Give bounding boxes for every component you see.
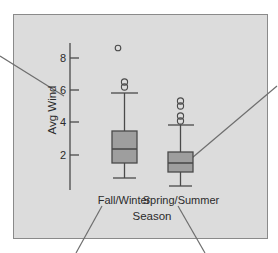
callout-lines bbox=[0, 56, 277, 253]
boxplot-svg: 8 6 4 2 Avg Wind bbox=[0, 0, 278, 253]
bp2-box bbox=[168, 152, 193, 172]
bp1-outlier-point bbox=[115, 45, 121, 51]
y-tick-label-8: 8 bbox=[60, 52, 66, 64]
boxplot-fall-winter bbox=[111, 45, 138, 178]
y-tick-label-6: 6 bbox=[60, 84, 66, 96]
boxplot-spring-summer bbox=[168, 98, 194, 186]
fallwinter-callout-line bbox=[76, 206, 102, 253]
y-axis-title: Avg Wind bbox=[46, 85, 58, 134]
y-tick-label-4: 4 bbox=[60, 116, 66, 128]
y-tick-label-2: 2 bbox=[60, 149, 66, 161]
x-tick-labels: Fall/Winter Spring/Summer bbox=[98, 194, 220, 206]
springsummer-callout-line bbox=[178, 206, 205, 253]
box2-callout-line bbox=[186, 86, 277, 163]
y-axis bbox=[70, 43, 79, 190]
figure-root: 8 6 4 2 Avg Wind bbox=[0, 0, 278, 253]
x-axis-title: Season bbox=[132, 210, 171, 222]
bp1-box bbox=[112, 131, 137, 163]
y-tick-labels: 8 6 4 2 bbox=[60, 52, 66, 161]
x-tick-label-spring-summer: Spring/Summer bbox=[143, 194, 220, 206]
